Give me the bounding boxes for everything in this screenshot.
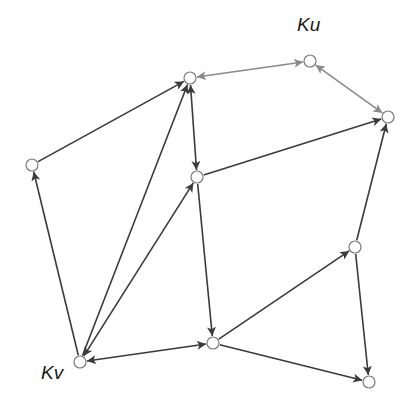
- edge-f-g: [220, 345, 362, 381]
- edge-f-e: [219, 251, 349, 339]
- directed-graph: [0, 0, 419, 420]
- node-b: [184, 72, 196, 84]
- node-g: [363, 376, 375, 388]
- node-ku: [304, 55, 316, 67]
- node-d: [191, 171, 203, 183]
- nodes-layer: [26, 55, 394, 388]
- node-c: [382, 111, 394, 123]
- node-e: [349, 241, 361, 253]
- node-a: [26, 159, 38, 171]
- node-f: [207, 337, 219, 349]
- edge-b-d: [191, 85, 197, 170]
- edge-d-f: [198, 184, 213, 336]
- edge-kv-f: [87, 344, 206, 361]
- node-label-ku: Ku: [297, 14, 320, 36]
- edge-ku-c: [316, 65, 383, 113]
- node-kv: [74, 356, 86, 368]
- edge-e-g: [356, 254, 369, 375]
- edge-b-ku: [197, 62, 303, 77]
- edge-kv-a: [34, 172, 79, 355]
- edges-layer: [34, 62, 387, 380]
- edge-e-c: [357, 124, 387, 240]
- node-label-kv: Kv: [41, 362, 63, 384]
- edge-kv-b: [83, 85, 188, 356]
- edge-d-c: [204, 119, 382, 175]
